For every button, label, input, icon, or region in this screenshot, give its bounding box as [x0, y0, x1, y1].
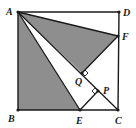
point-p — [96, 89, 99, 92]
label-e: E — [75, 115, 83, 126]
label-f: F — [121, 31, 129, 42]
point-c — [116, 108, 119, 111]
geometry-diagram: A D F Q P B E C — [0, 0, 136, 128]
point-a — [16, 10, 19, 13]
point-d — [117, 10, 120, 13]
point-f — [116, 34, 119, 37]
point-b — [16, 108, 19, 111]
label-c: C — [115, 115, 122, 126]
label-d: D — [122, 7, 130, 18]
label-a: A — [5, 6, 13, 17]
label-b: B — [7, 113, 15, 124]
label-q: Q — [75, 76, 82, 87]
label-p: P — [103, 85, 110, 96]
point-q — [80, 71, 83, 74]
point-e — [78, 108, 81, 111]
